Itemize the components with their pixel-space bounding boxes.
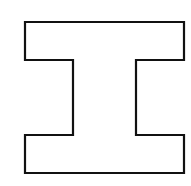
diagram-canvas [0,0,191,186]
i-beam-shape [25,22,184,173]
